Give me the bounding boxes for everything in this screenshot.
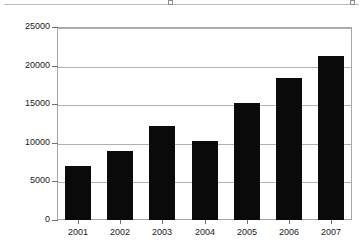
y-axis-label: 0 — [45, 215, 50, 224]
bar — [149, 126, 175, 220]
x-axis-label: 2002 — [100, 228, 140, 237]
bar — [234, 103, 260, 220]
bar — [276, 78, 302, 220]
y-axis-label: 10000 — [25, 138, 50, 147]
x-axis-label: 2004 — [185, 228, 225, 237]
y-axis-label: 20000 — [25, 61, 50, 70]
y-axis-tick — [52, 220, 58, 221]
bar — [65, 166, 91, 220]
x-axis-label: 2006 — [269, 228, 309, 237]
bar — [318, 56, 344, 220]
x-axis-tick — [162, 220, 163, 224]
y-axis-label: 15000 — [25, 99, 50, 108]
x-axis-label: 2007 — [311, 228, 351, 237]
bar — [192, 141, 218, 220]
bar — [107, 151, 133, 220]
y-axis-label: 5000 — [30, 176, 50, 185]
x-axis-tick — [331, 220, 332, 224]
x-axis-tick — [78, 220, 79, 224]
x-axis-label: 2005 — [227, 228, 267, 237]
x-axis-tick — [247, 220, 248, 224]
x-axis-tick — [205, 220, 206, 224]
x-axis-label: 2001 — [58, 228, 98, 237]
x-axis-tick — [289, 220, 290, 224]
bar-chart-figure: 0500010000150002000025000 20012002200320… — [0, 0, 363, 247]
y-axis-label: 25000 — [25, 22, 50, 31]
x-axis-label: 2003 — [142, 228, 182, 237]
x-axis-tick — [120, 220, 121, 224]
bar-series — [57, 27, 352, 220]
